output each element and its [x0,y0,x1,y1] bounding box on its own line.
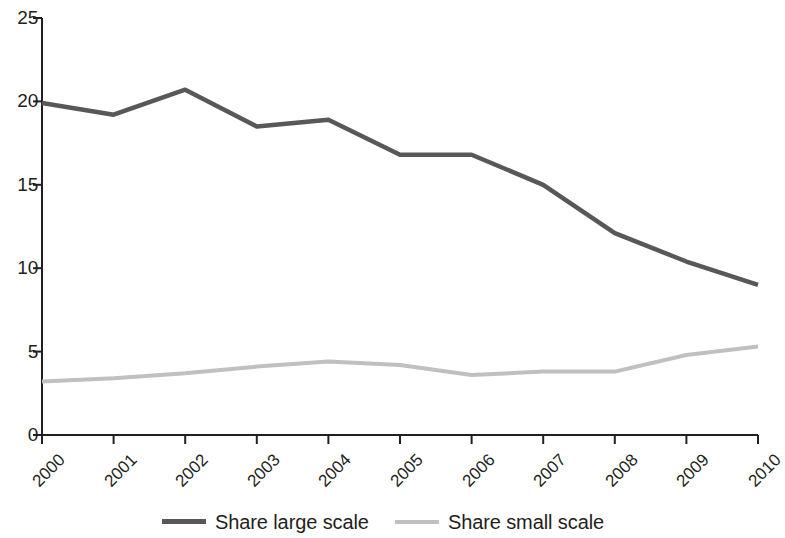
legend-swatch-small-icon [395,520,439,524]
legend-swatch-large-icon [162,519,206,524]
series-lines [42,90,758,382]
y-axis-ticks [33,18,42,435]
legend-item-share-large-scale: Share large scale [162,512,369,532]
chart-legend: Share large scale Share small scale [0,505,766,538]
series-line-share-small-scale [42,347,758,382]
legend-label-small: Share small scale [448,512,604,532]
legend-item-share-small-scale: Share small scale [395,512,604,532]
series-line-share-large-scale [42,90,758,285]
legend-label-large: Share large scale [215,512,369,532]
x-axis-ticks [42,435,758,444]
axis-lines [42,18,758,435]
